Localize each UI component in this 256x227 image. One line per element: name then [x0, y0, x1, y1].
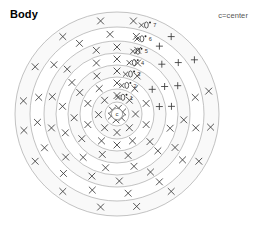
x-marker	[114, 80, 120, 86]
x-marker	[102, 165, 108, 171]
x-marker	[76, 40, 82, 46]
ring-label-dot-glyph	[137, 59, 139, 61]
x-marker	[131, 163, 137, 169]
ring-label-4: 4	[141, 60, 144, 66]
x-marker	[34, 119, 40, 125]
x-marker	[96, 86, 102, 92]
ring-label-dot-glyph	[126, 94, 128, 96]
x-marker	[155, 148, 161, 154]
x-marker	[143, 100, 149, 106]
x-marker	[107, 31, 113, 37]
radial-scatter-chart: 1234567 c	[0, 0, 256, 227]
ring-label-o-glyph	[125, 82, 129, 88]
ring-label-o-glyph	[140, 36, 144, 42]
ring-label-5: 5	[145, 48, 148, 54]
x-marker	[129, 138, 135, 144]
x-marker	[59, 103, 65, 109]
x-marker	[85, 100, 91, 106]
plus-marker	[175, 59, 181, 65]
ring-label-x-glyph	[127, 60, 132, 65]
ring-label-dot-glyph	[149, 22, 151, 24]
plus-marker	[162, 83, 168, 89]
ring-label-dot-glyph	[129, 82, 131, 84]
center-marker-group: c	[111, 108, 122, 119]
x-marker	[193, 125, 199, 131]
center-label: c	[116, 111, 119, 117]
x-marker	[36, 94, 42, 100]
radial-plot-page: Body c=center 1234567 c	[0, 0, 256, 227]
ring-label-1: 1	[130, 95, 133, 101]
plus-marker	[168, 103, 174, 109]
x-marker	[51, 62, 57, 68]
ring-label-dot-glyph	[145, 35, 147, 37]
x-marker	[125, 190, 131, 196]
x-marker	[41, 145, 47, 151]
ring-label-dot-glyph	[141, 48, 143, 50]
x-marker	[80, 154, 86, 160]
x-marker	[60, 170, 66, 176]
x-marker	[98, 138, 104, 144]
x-marker	[114, 142, 120, 148]
plus-marker	[156, 43, 162, 49]
x-marker	[69, 79, 75, 85]
x-marker	[167, 125, 173, 131]
x-marker	[62, 130, 68, 136]
ring-label-3: 3	[137, 71, 140, 77]
x-marker	[93, 60, 99, 66]
ring-label-x-glyph	[120, 83, 125, 88]
x-marker	[179, 157, 185, 163]
x-marker	[85, 122, 91, 128]
x-marker	[89, 187, 95, 193]
ring-label-6: 6	[149, 36, 152, 42]
x-marker	[192, 94, 198, 100]
ring-label-2: 2	[134, 83, 137, 89]
x-marker	[156, 179, 162, 185]
x-marker	[143, 122, 149, 128]
ring-label-dot-glyph	[133, 71, 135, 73]
ring-label-7: 7	[153, 22, 156, 28]
x-marker	[114, 56, 120, 62]
ring-label-o-glyph	[132, 59, 136, 65]
